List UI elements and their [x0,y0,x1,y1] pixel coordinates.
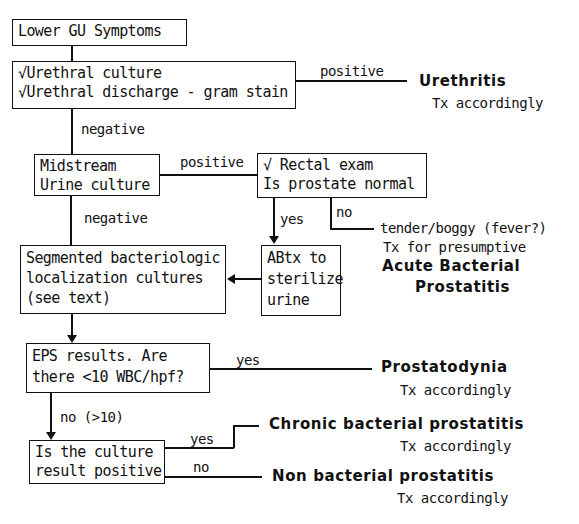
node-eps-results: EPS results. Are there <10 WBC/hpf? [26,343,210,393]
node-text: √Urethral culture [18,64,290,83]
node-text: (see text) [26,288,220,308]
arrow-to-abtx [269,236,279,244]
node-text: urine [267,290,335,311]
node-text: Segmented bacteriologic [26,248,220,268]
edge-label-rectal-no: no [336,203,352,221]
connector-rectal-no-h [330,228,374,230]
connector-culture-no [164,476,262,478]
connector-eps-yes [209,368,372,370]
node-text: sterilize [267,269,335,290]
node-text: Urine culture [40,176,154,195]
connector-abtx-to-segmented [234,278,261,280]
node-text: there <10 WBC/hpf? [32,367,204,388]
outcome-acute-pre1: tender/boggy (fever?) [380,219,547,237]
edge-label-eps-yes: yes [236,351,260,369]
outcome-chronic-sub: Tx accordingly [400,437,511,455]
node-text: √Urethral discharge - gram stain [18,83,290,102]
arrow-to-segmented [227,274,235,284]
edge-label-urethral-positive: positive [320,62,383,80]
arrow-to-eps [67,335,77,343]
node-abtx-sterilize: ABtx to sterilize urine [261,245,341,316]
node-text: ABtx to [267,248,335,269]
node-rectal-exam: √ Rectal exam Is prostate normal [257,153,427,198]
outcome-acute-title2: Prostatitis [415,278,510,296]
node-lower-gu-symptoms: Lower GU Symptoms [12,19,187,46]
node-text: Is the culture [35,443,159,462]
edge-label-culture-yes: yes [190,430,214,448]
node-text: localization cultures [26,268,220,288]
connector-midstream-negative [70,195,72,245]
node-text: Lower GU Symptoms [18,22,181,41]
connector-rectal-yes [273,197,275,237]
edge-label-eps-no: no (>10) [60,408,123,426]
connector-segmented-to-eps [71,313,73,335]
node-midstream-urine-culture: Midstream Urine culture [34,154,160,196]
node-culture-positive: Is the culture result positive [29,440,165,484]
arrow-to-culture [46,432,56,440]
node-text: EPS results. Are [32,346,204,367]
connector-culture-yes-h2 [233,425,259,427]
outcome-urethritis-title: Urethritis [419,72,506,90]
node-text: Midstream [40,157,154,176]
edge-label-midstream-positive: positive [180,153,243,171]
edge-label-rectal-yes: yes [280,210,304,228]
node-text: Is prostate normal [263,175,421,194]
node-text: result positive [35,462,159,481]
outcome-prostatodynia-sub: Tx accordingly [400,381,511,399]
connector-eps-no [50,392,52,432]
outcome-acute-pre2: Tx for presumptive [383,238,526,256]
connector-lower-to-urethral [71,45,73,61]
outcome-urethritis-sub: Tx accordingly [432,94,543,112]
connector-urethral-positive [295,80,407,82]
node-urethral-tests: √Urethral culture √Urethral discharge - … [12,61,296,109]
outcome-nonbacterial-sub: Tx accordingly [397,489,508,507]
outcome-chronic-title: Chronic bacterial prostatitis [269,415,524,433]
outcome-nonbacterial-title: Non bacterial prostatitis [272,467,494,485]
connector-culture-yes-v [233,425,235,448]
connector-urethral-negative [71,108,73,154]
node-text: √ Rectal exam [263,156,421,175]
edge-label-midstream-negative: negative [84,209,147,227]
outcome-prostatodynia-title: Prostatodynia [381,358,508,376]
connector-midstream-positive [159,174,257,176]
edge-label-urethral-negative: negative [81,120,144,138]
edge-label-culture-no: no [193,458,209,476]
outcome-acute-title1: Acute Bacterial [382,257,520,275]
node-segmented-cultures: Segmented bacteriologic localization cul… [20,245,226,314]
connector-rectal-no [330,197,332,229]
